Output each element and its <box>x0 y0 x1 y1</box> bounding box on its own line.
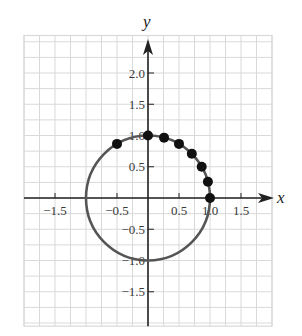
data-point <box>203 177 213 187</box>
data-point <box>112 139 122 149</box>
unit-circle-chart: −1.5−0.50.51.01.5 2.01.51.00.5−0.5−1.0−1… <box>0 0 302 336</box>
data-point <box>143 131 153 141</box>
x-tick-label: −1.5 <box>43 203 67 218</box>
x-tick-label: 0.5 <box>171 203 187 218</box>
data-point <box>197 162 207 172</box>
y-tick-label: 0.5 <box>129 159 145 174</box>
x-axis-label: x <box>276 188 285 207</box>
x-ticks: −1.5−0.50.51.01.5 <box>43 193 249 218</box>
data-point <box>187 149 197 159</box>
y-tick-label: 1.5 <box>129 97 145 112</box>
y-axis-label: y <box>141 12 151 31</box>
data-point <box>205 193 215 203</box>
x-tick-label: −0.5 <box>105 203 129 218</box>
data-point <box>159 133 169 143</box>
y-tick-label: −0.5 <box>121 222 145 237</box>
y-tick-label: 2.0 <box>129 66 145 81</box>
y-tick-label: −1.5 <box>121 284 145 299</box>
x-tick-label: 1.5 <box>233 203 249 218</box>
data-point <box>174 139 184 149</box>
